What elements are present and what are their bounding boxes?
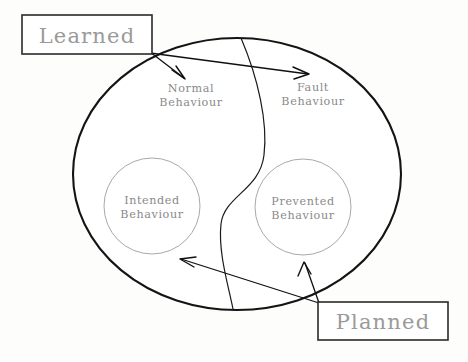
intended-behaviour-label-line1: Intended [124, 194, 180, 207]
intended-behaviour-label-line2: Behaviour [120, 208, 183, 221]
learned-callout-box[interactable]: Learned [22, 15, 152, 54]
fault-behaviour-label-line2: Behaviour [281, 95, 344, 108]
fault-behaviour-label-line1: Fault [297, 81, 329, 94]
planned-box-label: Planned [336, 310, 431, 334]
diagram-canvas: Normal Behaviour Fault Behaviour Intende… [0, 0, 468, 362]
prevented-behaviour-label: Prevented Behaviour [271, 195, 334, 222]
intended-behaviour-label: Intended Behaviour [120, 194, 183, 221]
normal-behaviour-label-line2: Behaviour [159, 96, 222, 109]
prevented-behaviour-label-line1: Prevented [271, 195, 334, 208]
planned-callout-box[interactable]: Planned [318, 302, 448, 340]
system-behaviour-ellipse [73, 38, 401, 310]
normal-behaviour-label: Normal Behaviour [159, 82, 222, 109]
normal-behaviour-label-line1: Normal [168, 82, 214, 95]
learned-box-label: Learned [39, 24, 136, 48]
prevented-behaviour-label-line2: Behaviour [271, 209, 334, 222]
venn-diagram-svg: Normal Behaviour Fault Behaviour Intende… [0, 0, 468, 362]
